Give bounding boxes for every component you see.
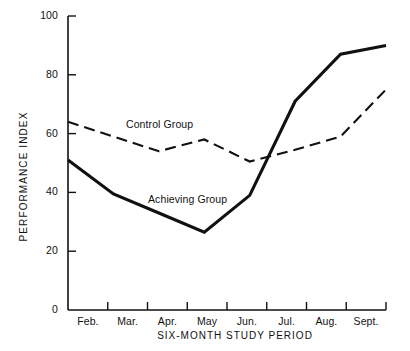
y-tick-label-20: 20 xyxy=(28,244,58,256)
x-axis-ticks xyxy=(108,302,386,310)
x-tick-label-sept: Sept. xyxy=(343,315,389,327)
line-chart-plot xyxy=(0,0,410,351)
chart-figure: 100 80 60 40 20 0 Feb. Mar. Apr. May Jun… xyxy=(0,0,410,351)
series-label-control-group: Control Group xyxy=(126,118,193,130)
x-axis-title: SIX-MONTH STUDY PERIOD xyxy=(70,330,400,341)
y-tick-label-100: 100 xyxy=(28,9,58,21)
y-axis-ticks xyxy=(68,16,76,251)
series-line-control-group xyxy=(68,90,386,162)
series-label-achieving-group: Achieving Group xyxy=(148,193,227,205)
y-tick-label-80: 80 xyxy=(28,68,58,80)
y-tick-label-0: 0 xyxy=(28,303,58,315)
y-tick-label-40: 40 xyxy=(28,185,58,197)
y-tick-label-60: 60 xyxy=(28,127,58,139)
y-axis-title: PERFORMANCE INDEX xyxy=(18,92,29,262)
